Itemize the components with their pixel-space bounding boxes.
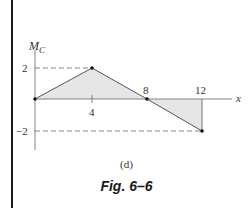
- subfigure-label: (d): [0, 158, 249, 170]
- y-tick-label-minus-2: −2: [16, 125, 28, 137]
- point-end: [200, 129, 204, 133]
- y-axis-label: MC: [28, 39, 46, 55]
- positive-area: [35, 68, 147, 99]
- point-origin: [33, 97, 37, 101]
- x-axis-label: x: [235, 92, 241, 104]
- influence-line-diagram: MC 2 −2 4 8 12 x: [0, 0, 249, 208]
- x-tick-label-8: 8: [143, 84, 149, 96]
- x-tick-label-12: 12: [195, 84, 206, 96]
- figure-caption: Fig. 6–6: [0, 178, 249, 194]
- point-peak: [90, 66, 94, 70]
- y-tick-label-2: 2: [22, 62, 28, 74]
- point-zero-crossing: [145, 97, 149, 101]
- x-tick-label-4: 4: [89, 106, 95, 118]
